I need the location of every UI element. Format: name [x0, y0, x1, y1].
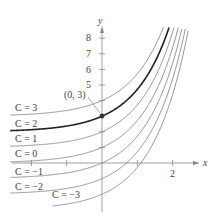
- curve-label-c2: C = 2: [15, 118, 37, 129]
- curve-label-cm3: C = −3: [52, 189, 80, 200]
- curve-label-c0: C = 0: [15, 148, 37, 159]
- y-tick-label-8: 8: [86, 32, 91, 43]
- chart: x y 8 7 6 5 2 (0, 3) C = 3 C = 2 C = 1 C…: [0, 0, 214, 219]
- point-label: (0, 3): [64, 89, 86, 101]
- curve-label-c1: C = 1: [15, 133, 37, 144]
- x-axis-arrow-icon: [193, 161, 200, 165]
- curve-label-c3: C = 3: [15, 102, 37, 113]
- x-tick-label-2: 2: [170, 168, 175, 179]
- curve-label-cm1: C = −1: [15, 166, 43, 177]
- y-tick-label-5: 5: [86, 79, 91, 90]
- y-axis-label: y: [97, 15, 103, 26]
- x-axis-label: x: [202, 157, 208, 168]
- curve-c-3: [53, 31, 189, 206]
- y-tick-label-7: 7: [86, 48, 91, 59]
- plot-area: x y 8 7 6 5 2 (0, 3) C = 3 C = 2 C = 1 C…: [0, 0, 214, 219]
- curve-label-cm2: C = −2: [15, 181, 43, 192]
- point-marker: [100, 114, 105, 119]
- y-axis-arrow-icon: [100, 26, 104, 33]
- y-tick-label-6: 6: [86, 64, 91, 75]
